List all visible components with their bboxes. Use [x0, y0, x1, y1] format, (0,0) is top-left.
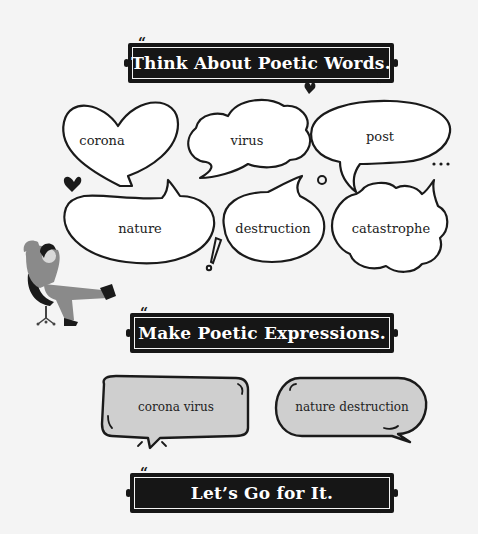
section-title: Let’s Go for It. [191, 483, 333, 503]
exclamation-icon [207, 238, 221, 270]
close-quote-mark: ” [376, 348, 384, 362]
ellipsis-icon [432, 162, 449, 165]
heart-icon [305, 82, 316, 94]
section-banner-make: “ Make Poetic Expressions. ” [130, 313, 394, 353]
expression-corona-virus: corona virus [138, 400, 214, 414]
open-quote-mark: “ [140, 306, 148, 320]
heart-icon [64, 177, 81, 192]
banner-right-nub [393, 329, 398, 337]
banner-right-nub [393, 489, 398, 497]
circle-icon [318, 176, 326, 184]
word-destruction: destruction [235, 221, 310, 236]
word-catastrophe: catastrophe [352, 221, 430, 236]
banner-left-nub [126, 489, 131, 497]
expression-nature-destruction: nature destruction [295, 400, 409, 414]
poetic-words-worksheet: “ Think About Poetic Words. ” [0, 0, 478, 534]
section-banner-go: “ Let’s Go for It. ” [130, 473, 394, 513]
round-bubble-shape [223, 176, 324, 262]
word-virus: virus [231, 133, 264, 148]
oval-bubble-shape [311, 101, 450, 192]
word-nature: nature [118, 221, 162, 236]
word-post: post [366, 129, 394, 144]
word-corona: corona [79, 133, 124, 148]
close-quote-mark: ” [376, 508, 384, 522]
bubbles-illustration [0, 0, 478, 534]
open-quote-mark: “ [140, 466, 148, 480]
banner-left-nub [126, 329, 131, 337]
section-title: Make Poetic Expressions. [138, 323, 386, 343]
